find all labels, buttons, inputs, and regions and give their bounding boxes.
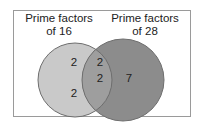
set-label-28-line1: Prime factors [106, 12, 184, 25]
set-label-16-line1: Prime factors [20, 12, 98, 25]
region-left-value: 2 [68, 87, 80, 100]
set-label-28: Prime factors of 28 [106, 12, 184, 38]
set-label-16-line2: of 16 [20, 25, 98, 38]
set-label-16: Prime factors of 16 [20, 12, 98, 38]
region-intersection-value: 2 [94, 56, 106, 69]
region-intersection-value: 2 [94, 72, 106, 85]
set-label-28-line2: of 28 [106, 25, 184, 38]
region-left-value: 2 [68, 56, 80, 69]
region-right-value: 7 [123, 72, 135, 85]
